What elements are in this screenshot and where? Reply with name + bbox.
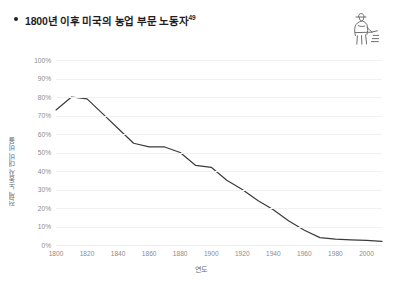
y-axis-tick-10: 10% [17, 223, 51, 230]
farmer-icon [340, 8, 384, 50]
y-axis-tick-100: 100% [17, 57, 51, 64]
gridline-y-40 [56, 171, 382, 172]
gridline-y-10 [56, 227, 382, 228]
y-axis-tick-50: 50% [17, 149, 51, 156]
x-axis-tick-2000: 2000 [346, 250, 386, 257]
y-axis-tick-30: 30% [17, 186, 51, 193]
title-label: 1800년 이후 미국의 농업 부문 노동자 [25, 15, 189, 27]
chart-header: 1800년 이후 미국의 농업 부문 노동자49 [0, 0, 402, 56]
y-axis-tick-40: 40% [17, 168, 51, 175]
gridline-y-100 [56, 60, 382, 61]
y-axis-tick-80: 80% [17, 94, 51, 101]
y-axis-tick-70: 70% [17, 112, 51, 119]
footnote-marker: 49 [189, 14, 196, 21]
line-chart: 전체 노동자 대비 비율 연도 0%10%20%30%40%50%60%70%8… [0, 52, 402, 287]
y-axis-tick-0: 0% [17, 242, 51, 249]
y-axis-tick-90: 90% [17, 75, 51, 82]
title-row: 1800년 이후 미국의 농업 부문 노동자49 [14, 11, 195, 28]
gridline-y-60 [56, 134, 382, 135]
y-axis-tick-20: 20% [17, 205, 51, 212]
gridline-y-0 [56, 245, 382, 246]
gridline-y-70 [56, 116, 382, 117]
gridline-y-20 [56, 208, 382, 209]
bullet-marker [14, 17, 18, 21]
x-axis-label: 연도 [0, 264, 402, 274]
series-polyline [56, 97, 382, 241]
gridline-y-90 [56, 79, 382, 80]
gridline-y-50 [56, 153, 382, 154]
gridline-y-80 [56, 97, 382, 98]
y-axis-tick-60: 60% [17, 131, 51, 138]
gridline-y-30 [56, 190, 382, 191]
plot-area [56, 60, 382, 245]
page-title: 1800년 이후 미국의 농업 부문 노동자49 [25, 11, 195, 28]
